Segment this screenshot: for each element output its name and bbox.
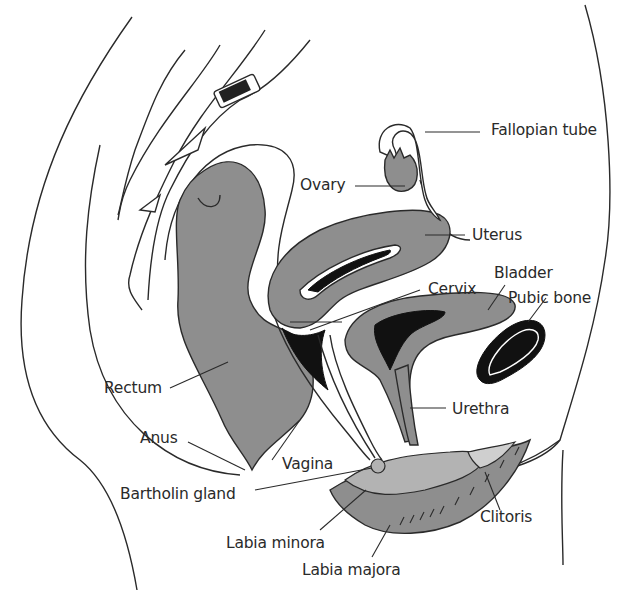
sacrum-outline-2 [118,50,185,215]
pubic-bone [477,320,545,383]
label-fallopian-tube: Fallopian tube [491,123,597,139]
thigh-outline [562,450,563,565]
label-rectum: Rectum [104,381,162,397]
label-pubic-bone: Pubic bone [508,291,591,307]
label-labia-minora: Labia minora [226,536,325,552]
label-cervix: Cervix [428,282,476,298]
label-uterus: Uterus [472,228,522,244]
label-labia-majora: Labia majora [302,563,401,579]
label-clitoris: Clitoris [480,510,532,526]
label-ovary: Ovary [300,178,345,194]
label-urethra: Urethra [452,402,509,418]
coccyx-segment [165,128,205,165]
bartholin-gland [371,459,385,473]
coccyx-segment [140,195,160,212]
label-bladder: Bladder [494,266,553,282]
label-bartholin-gland: Bartholin gland [120,487,236,503]
label-anus: Anus [140,431,178,447]
label-vagina: Vagina [282,457,333,473]
back-outline [21,17,137,590]
ovary [385,148,418,191]
